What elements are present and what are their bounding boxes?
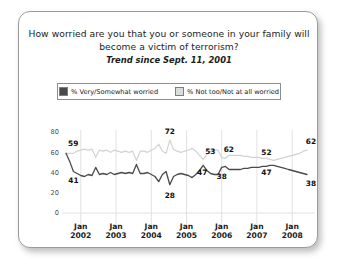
- svg-text:72: 72: [165, 127, 175, 136]
- chart-legend: % Very/Somewhat worried % Not too/Not at…: [57, 83, 281, 100]
- svg-text:20: 20: [51, 189, 59, 197]
- svg-text:47: 47: [197, 168, 207, 177]
- line-chart-svg: 020406080 Jan2002Jan2003Jan2004Jan2005Ja…: [19, 124, 319, 242]
- svg-text:Jan: Jan: [108, 222, 122, 231]
- chart-card: How worried are you that you or someone …: [18, 11, 318, 248]
- svg-text:53: 53: [205, 147, 215, 156]
- svg-text:80: 80: [51, 128, 59, 136]
- svg-text:2005: 2005: [176, 231, 197, 240]
- svg-text:Jan: Jan: [285, 222, 299, 231]
- svg-text:2003: 2003: [106, 231, 127, 240]
- svg-text:Jan: Jan: [214, 222, 228, 231]
- svg-text:41: 41: [68, 176, 78, 185]
- svg-text:0: 0: [55, 209, 59, 217]
- svg-text:2002: 2002: [70, 231, 91, 240]
- svg-text:47: 47: [261, 168, 271, 177]
- chart-gridlines: [62, 130, 315, 229]
- chart-subtitle: Trend since Sept. 11, 2001: [19, 54, 319, 66]
- legend-label-very-somewhat-worried: % Very/Somewhat worried: [71, 88, 158, 96]
- svg-text:Jan: Jan: [249, 222, 263, 231]
- chart-plot-area: 020406080 Jan2002Jan2003Jan2004Jan2005Ja…: [19, 124, 319, 242]
- legend-item-not-too-not-at-all-worried[interactable]: % Not too/Not at all worried: [175, 87, 279, 96]
- chart-x-axis-ticks: Jan2002Jan2003Jan2004Jan2005Jan2006Jan20…: [70, 222, 303, 240]
- screenshot-root: How worried are you that you or someone …: [0, 0, 340, 266]
- svg-text:38: 38: [306, 179, 316, 188]
- chart-data-labels: 594172285347623852476238: [68, 127, 316, 200]
- legend-label-not-too-not-at-all-worried: % Not too/Not at all worried: [187, 88, 279, 96]
- svg-text:40: 40: [51, 169, 59, 177]
- svg-text:2004: 2004: [141, 231, 162, 240]
- svg-text:Jan: Jan: [144, 222, 158, 231]
- svg-text:28: 28: [165, 191, 175, 200]
- chart-title-line-2: become a victim of terrorism?: [19, 41, 319, 54]
- svg-text:2008: 2008: [282, 231, 303, 240]
- svg-text:2006: 2006: [211, 231, 232, 240]
- svg-text:38: 38: [217, 172, 227, 181]
- chart-title-line-1: How worried are you that you or someone …: [19, 28, 319, 41]
- legend-swatch-icon-light: [175, 87, 184, 96]
- svg-text:2007: 2007: [246, 231, 267, 240]
- svg-text:Jan: Jan: [73, 222, 87, 231]
- legend-swatch-icon-dark: [59, 87, 68, 96]
- svg-text:62: 62: [306, 137, 316, 146]
- svg-text:Jan: Jan: [179, 222, 193, 231]
- svg-text:62: 62: [224, 145, 234, 154]
- chart-title-block: How worried are you that you or someone …: [19, 28, 319, 66]
- legend-item-very-somewhat-worried[interactable]: % Very/Somewhat worried: [59, 87, 158, 96]
- svg-text:52: 52: [261, 148, 271, 157]
- chart-y-axis-ticks: 020406080: [51, 128, 59, 217]
- svg-text:59: 59: [68, 139, 78, 148]
- svg-text:60: 60: [51, 149, 59, 157]
